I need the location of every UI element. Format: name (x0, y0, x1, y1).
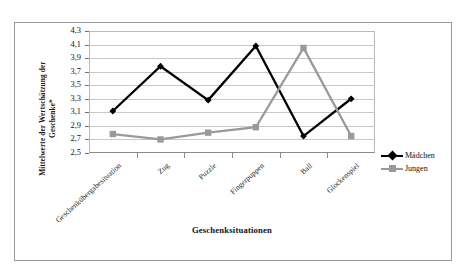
y-axis-tick-label: 3,7 (57, 68, 81, 76)
legend-swatch (381, 164, 403, 174)
x-axis-tick-mark (184, 153, 185, 158)
x-axis-tick-mark (232, 153, 233, 158)
x-axis-category-label: Glockenspiel (325, 161, 361, 195)
y-axis-tick-label: 3,9 (57, 54, 81, 62)
y-axis-tick-label: 2,5 (57, 149, 81, 157)
y-axis-tick-label: 4,3 (57, 27, 81, 35)
x-axis-tick-mark (137, 153, 138, 158)
legend-marker-square-icon (389, 165, 396, 172)
series-jungen (110, 45, 355, 143)
data-point-marker-square (110, 131, 116, 137)
x-axis-category-label: Fingerpuppen (228, 161, 266, 196)
y-axis-title-line2: Geschenke* (47, 39, 57, 199)
series-mädchen (109, 43, 354, 140)
chart-series-layer (89, 31, 375, 153)
x-axis-category-label: Puzzle (197, 161, 218, 181)
y-axis-tick-label: 3,3 (57, 95, 81, 103)
y-axis-tick-label: 2,9 (57, 122, 81, 130)
x-axis-category-label: Geschenkübergabesituation (54, 161, 123, 225)
data-point-marker-square (300, 45, 306, 51)
x-axis-tick-mark (280, 153, 281, 158)
x-axis-category-label: Ball (298, 161, 314, 176)
legend-item-jungen[interactable]: Jungen (381, 162, 451, 175)
y-axis-tick-mark (85, 153, 89, 154)
y-axis-tick-label: 2,7 (57, 135, 81, 143)
legend-label: Jungen (405, 164, 428, 173)
legend-label: Mädchen (405, 151, 435, 160)
chart-legend: MädchenJungen (381, 149, 451, 175)
data-point-marker-square (348, 133, 354, 139)
x-axis-title: Geschenksituationen (89, 225, 375, 235)
plot-area: 4,34,13,93,73,53,33,12,92,72,5 (89, 31, 375, 153)
data-point-marker-square (205, 129, 211, 135)
legend-marker-diamond-icon (388, 151, 398, 161)
x-axis-category-label: Zug (155, 161, 170, 176)
data-point-marker-square (157, 136, 163, 142)
y-axis-tick-label: 3,5 (57, 81, 81, 89)
chart-figure-frame: Mittelwerte der Wertschätzung der Gesche… (14, 22, 452, 261)
y-axis-tick-label: 3,1 (57, 108, 81, 116)
x-axis-tick-mark (327, 153, 328, 158)
y-axis-tick-label: 4,1 (57, 41, 81, 49)
y-axis-title-line1: Mittelwerte der Wertschätzung der (38, 39, 48, 199)
y-axis-title: Mittelwerte der Wertschätzung der Gesche… (38, 39, 57, 199)
series-line (113, 46, 351, 136)
legend-swatch (381, 151, 403, 161)
data-point-marker-square (253, 124, 259, 130)
legend-item-mädchen[interactable]: Mädchen (381, 149, 451, 162)
